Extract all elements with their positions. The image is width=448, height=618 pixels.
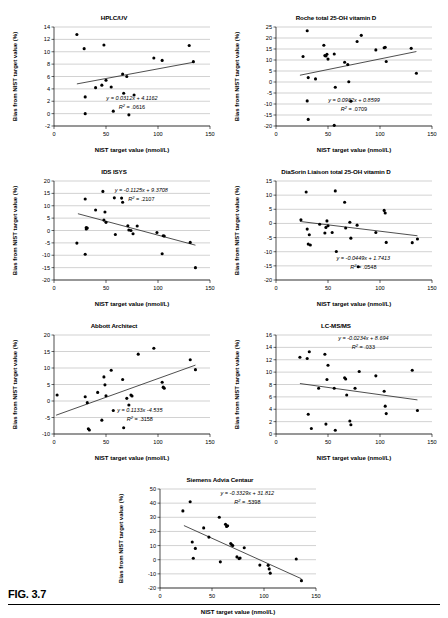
data-point <box>94 86 97 89</box>
x-axis-title: NIST target value (nmol/L) <box>95 455 169 461</box>
chart-svg-diasorin: -20-15-10-5051015050100150NIST target va… <box>230 168 442 310</box>
y-tick-label: 15 <box>266 46 272 52</box>
data-point <box>181 509 184 512</box>
data-point <box>219 560 222 563</box>
y-tick-label: 10 <box>44 365 50 371</box>
y-tick-label: -2 <box>45 123 50 129</box>
chart-svg-roche: -20-15-10-50510152025050100150NIST targe… <box>230 14 442 156</box>
regression-equation: y = -0.1125x + 9.3708 <box>114 187 169 193</box>
data-point <box>113 196 116 199</box>
x-tick-label: 50 <box>325 285 331 291</box>
chart-panel-hplc-uv: HPLC/UV-202468101214050100150NIST target… <box>8 14 220 156</box>
y-tick-label: 0 <box>47 228 50 234</box>
y-tick-label: 15 <box>44 349 50 355</box>
data-point <box>322 44 325 47</box>
data-point <box>163 234 166 237</box>
y-tick-label: -20 <box>148 585 156 591</box>
data-point <box>348 221 351 224</box>
y-tick-label: 10 <box>266 369 272 375</box>
x-tick-label: 100 <box>375 131 384 137</box>
data-point <box>344 226 347 229</box>
y-tick-label: 20 <box>150 528 156 534</box>
data-point <box>102 43 105 46</box>
data-point <box>333 124 336 127</box>
regression-equation: y = 0.0962x + 0.8599 <box>327 97 380 103</box>
y-axis-title: Bias from NIST target value (%) <box>12 32 18 121</box>
data-point <box>306 228 309 231</box>
data-point <box>314 77 317 80</box>
data-points <box>301 29 417 127</box>
y-axis-title: Bias from NIST target value (%) <box>118 494 124 583</box>
x-tick-label: 50 <box>325 439 331 445</box>
x-tick-label: 50 <box>103 285 109 291</box>
y-tick-label: 0 <box>269 220 272 226</box>
figure-caption: FIG. 3.7 <box>8 588 46 600</box>
data-point <box>231 544 234 547</box>
data-point <box>349 423 352 426</box>
trend-line <box>300 52 416 76</box>
data-point <box>112 110 115 113</box>
y-tick-label: 15 <box>266 178 272 184</box>
y-tick-label: -5 <box>267 235 272 241</box>
data-point <box>84 112 87 115</box>
data-point <box>103 210 106 213</box>
data-point <box>353 387 356 390</box>
y-tick-label: 16 <box>266 332 272 338</box>
data-point <box>129 229 132 232</box>
y-tick-label: 0 <box>269 79 272 85</box>
data-point <box>309 243 312 246</box>
data-point <box>56 394 59 397</box>
data-point <box>104 221 107 224</box>
data-point <box>88 428 91 431</box>
data-point <box>86 401 89 404</box>
data-point <box>318 223 321 226</box>
data-point <box>152 347 155 350</box>
y-tick-label: 10 <box>44 49 50 55</box>
y-tick-label: 0 <box>47 398 50 404</box>
y-tick-label: -10 <box>42 431 50 437</box>
y-tick-label: 4 <box>269 406 272 412</box>
y-tick-label: 6 <box>47 74 50 80</box>
data-point <box>416 237 419 240</box>
regression-equation: y = -0.0449x + 1.7413 <box>336 255 391 261</box>
y-tick-label: -15 <box>264 112 272 118</box>
data-point <box>86 226 89 229</box>
x-tick-label: 0 <box>52 131 55 137</box>
data-point <box>298 356 301 359</box>
data-point <box>189 241 192 244</box>
y-tick-label: 5 <box>269 206 272 212</box>
data-point <box>121 378 124 381</box>
data-point <box>101 190 104 193</box>
y-tick-label: 5 <box>47 382 50 388</box>
data-point <box>343 201 346 204</box>
data-point <box>110 369 113 372</box>
x-tick-label: 150 <box>205 285 214 291</box>
chart-panel-diasorin: DiaSorin Liaison total 25-OH vitamin D-2… <box>230 168 442 310</box>
chart-svg-lc-ms-ms: 0246810121416050100150NIST target value … <box>230 322 442 464</box>
chart-panel-siemens: Siemens Advia Centaur-20-100102030405005… <box>114 476 326 618</box>
data-point <box>84 95 87 98</box>
data-point <box>308 350 311 353</box>
data-point <box>268 567 271 570</box>
data-point <box>189 500 192 503</box>
data-point <box>125 75 128 78</box>
data-point <box>383 390 386 393</box>
data-point <box>100 84 103 87</box>
data-point <box>307 413 310 416</box>
y-tick-label: 25 <box>266 24 272 30</box>
data-point <box>188 44 191 47</box>
data-point <box>194 266 197 269</box>
x-axis-title: NIST target value (nmol/L) <box>317 147 391 153</box>
data-point <box>191 540 194 543</box>
y-tick-label: -10 <box>264 249 272 255</box>
data-point <box>243 546 246 549</box>
data-point <box>299 218 302 221</box>
x-tick-label: 0 <box>52 439 55 445</box>
y-tick-label: -10 <box>42 252 50 258</box>
data-point <box>344 377 347 380</box>
data-point <box>323 353 326 356</box>
data-point <box>126 224 129 227</box>
r-squared-label: R2 = .5398 <box>234 498 260 506</box>
chart-title-lc-ms-ms: LC-MS/MS <box>230 322 442 329</box>
data-point <box>104 79 107 82</box>
